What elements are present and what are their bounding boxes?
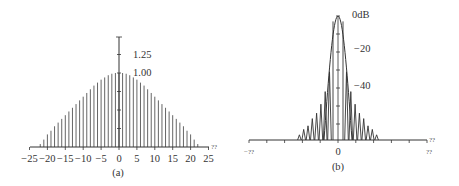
x-tick-label: −5 bbox=[96, 153, 107, 164]
y-tick-label-1-25: 1.25 bbox=[133, 49, 151, 60]
stem-plot-a: 1.25 1.00 ?? −25−20−15−10−50510152025 (a… bbox=[21, 37, 217, 179]
x-tick-label: −15 bbox=[57, 153, 73, 164]
y-tick-label-minus20: −20 bbox=[354, 43, 370, 54]
x-tick-label: 0 bbox=[116, 153, 121, 164]
caption-b: (b) bbox=[332, 161, 345, 173]
figure-canvas: 1.25 1.00 ?? −25−20−15−10−50510152025 (a… bbox=[0, 0, 459, 186]
x-tick-label: 20 bbox=[185, 153, 196, 164]
x-tick-label-right: ?? bbox=[426, 148, 432, 156]
y-tick-label-minus40: −40 bbox=[354, 80, 370, 91]
spectrum-plot-b: 0dB −20 −40 ?? −?? 0 ?? (b) bbox=[244, 9, 435, 173]
x-axis-label-b: ?? bbox=[429, 136, 435, 144]
x-tick-label: −20 bbox=[39, 153, 55, 164]
x-tick-label: −10 bbox=[75, 153, 91, 164]
y-tick-label-0db: 0dB bbox=[352, 9, 370, 20]
x-tick-label: 15 bbox=[167, 153, 178, 164]
x-tick-label: −25 bbox=[21, 153, 37, 164]
x-tick-label-center: 0 bbox=[335, 146, 340, 157]
x-tick-label: 10 bbox=[150, 153, 161, 164]
y-tick-label-1-00: 1.00 bbox=[133, 67, 151, 78]
x-tick-label-left: −?? bbox=[244, 148, 254, 156]
x-tick-labels-a: −25−20−15−10−50510152025 bbox=[21, 153, 213, 164]
caption-a: (a) bbox=[112, 167, 124, 179]
x-tick-label: 5 bbox=[134, 153, 139, 164]
x-axis-label-a: ?? bbox=[211, 143, 217, 151]
x-tick-label: 25 bbox=[203, 153, 214, 164]
